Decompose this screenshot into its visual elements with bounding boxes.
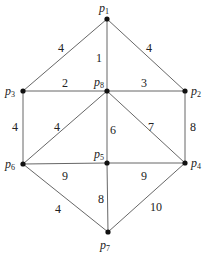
edge-weight-label: 9 <box>141 169 147 183</box>
edges: 4412344678994810 <box>12 19 196 232</box>
node-p1 <box>104 16 109 21</box>
node-p2 <box>182 88 187 93</box>
node-p4 <box>182 160 187 165</box>
node-p6 <box>20 161 25 166</box>
node-label-p8: p8 <box>93 75 104 90</box>
node-label-p4: p4 <box>190 156 201 171</box>
edge-weight-label: 4 <box>55 202 61 216</box>
node-p7 <box>105 229 110 234</box>
edge-weight-label: 2 <box>62 76 68 90</box>
edge-weight-label: 7 <box>148 120 154 134</box>
node-label-p7: p7 <box>99 238 110 253</box>
edge-weight-label: 9 <box>62 169 68 183</box>
edge-weight-label: 4 <box>58 41 64 55</box>
edge-weight-label: 4 <box>54 120 60 134</box>
edge-weight-label: 8 <box>98 192 104 206</box>
edge-weight-label: 1 <box>96 51 102 65</box>
node-label-p1: p1 <box>98 1 109 16</box>
edge-weight-label: 6 <box>110 123 116 137</box>
node-label-p3: p3 <box>4 84 15 99</box>
node-p8 <box>104 88 109 93</box>
edge-weight-label: 10 <box>150 200 162 214</box>
nodes: p1p2p3p4p5p6p7p8 <box>4 1 201 253</box>
edge-weight-label: 3 <box>141 76 147 90</box>
node-label-p2: p2 <box>190 84 201 99</box>
edge-p5-p7 <box>107 163 108 232</box>
node-p5 <box>104 160 109 165</box>
node-label-p6: p6 <box>4 157 15 172</box>
edge-p8-p4 <box>107 91 185 163</box>
edge-weight-label: 8 <box>190 120 196 134</box>
edge-weight-label: 4 <box>146 41 152 55</box>
graph-diagram: 4412344678994810 p1p2p3p4p5p6p7p8 <box>0 0 210 253</box>
node-p3 <box>20 88 25 93</box>
node-label-p5: p5 <box>93 147 104 162</box>
edge-p6-p5 <box>23 163 107 164</box>
edge-weight-label: 4 <box>12 120 18 134</box>
